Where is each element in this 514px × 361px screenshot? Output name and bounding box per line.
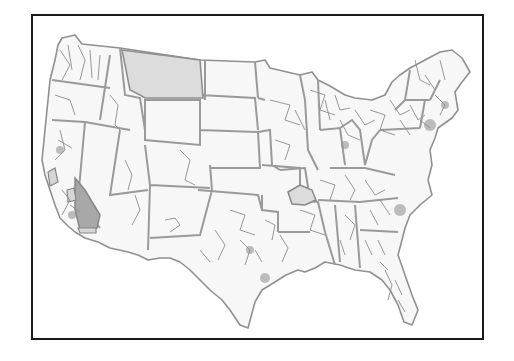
california-small-district xyxy=(67,188,76,202)
south-coast-california xyxy=(78,228,96,233)
us-district-map xyxy=(0,0,514,361)
montana-region xyxy=(122,50,203,98)
